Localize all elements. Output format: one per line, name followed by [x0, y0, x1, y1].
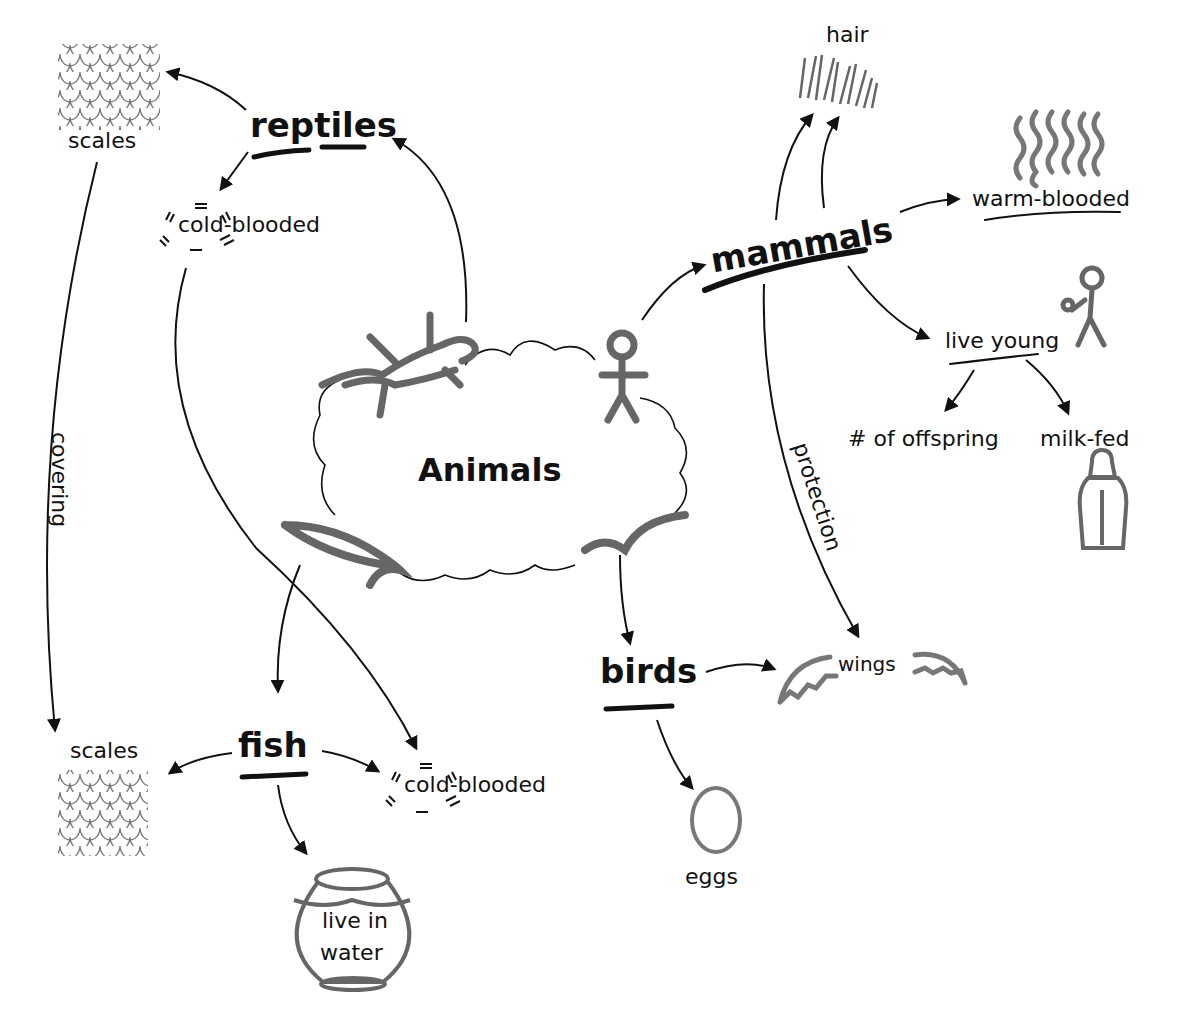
edge-cold-cold: [175, 268, 416, 748]
edge-fish-water: [278, 785, 306, 853]
edge-mammals-warm: [900, 199, 958, 212]
label-wings: wings: [838, 654, 896, 674]
label-fish-scales: scales: [70, 740, 138, 762]
edge-birds-eggs: [657, 720, 692, 788]
parent-child-icon: [1063, 268, 1104, 345]
edge-animals-birds: [620, 555, 630, 643]
node-reptiles[interactable]: reptiles: [250, 108, 397, 142]
label-eggs: eggs: [685, 866, 738, 888]
node-animals[interactable]: Animals: [418, 454, 561, 486]
fish-underline: [242, 774, 306, 777]
lizard-icon: [322, 315, 475, 415]
node-fish[interactable]: fish: [238, 728, 308, 762]
scales-icon-reptiles: [58, 44, 160, 130]
edge-reptiles-cold: [221, 152, 248, 189]
edge-animals-fish: [278, 565, 300, 691]
edge-label-covering: covering: [48, 432, 70, 527]
live-young-underline: [950, 354, 1038, 364]
edge-animals-mammals: [642, 265, 704, 320]
edge-reptiles-scales: [168, 72, 246, 110]
label-live-in: live in: [322, 910, 388, 932]
label-fish-cold-blooded: cold-blooded: [404, 774, 546, 796]
label-water: water: [320, 942, 383, 964]
edge-birds-wings: [706, 664, 774, 672]
label-warm-blooded: warm-blooded: [972, 188, 1130, 210]
edge-mammals-hair-1: [776, 115, 812, 220]
edge-liveyoung-milk: [1026, 360, 1068, 413]
edge-mammals-liveyoung: [848, 266, 928, 338]
egg-icon: [692, 788, 740, 852]
reptiles-underline: [254, 147, 364, 157]
birds-underline: [606, 706, 672, 709]
edge-animals-reptiles: [394, 139, 466, 322]
heat-waves-icon: [1016, 112, 1102, 186]
edge-fish-scales: [170, 753, 232, 773]
label-reptiles-cold-blooded: cold-blooded: [178, 214, 320, 236]
edge-liveyoung-offspring: [946, 370, 974, 410]
fish-icon: [285, 525, 400, 585]
label-reptiles-scales: scales: [68, 130, 136, 152]
stick-figure-icon: [602, 333, 645, 420]
edge-mammals-hair-2: [822, 118, 838, 208]
hair-icon: [800, 55, 877, 108]
node-birds[interactable]: birds: [600, 654, 697, 688]
label-milk-fed: milk-fed: [1040, 428, 1130, 450]
warm-underline: [985, 212, 1120, 220]
label-live-young: live young: [945, 330, 1059, 352]
scales-icon-fish: [58, 770, 148, 856]
label-hair: hair: [826, 24, 869, 46]
edge-fish-cold: [322, 751, 378, 771]
bird-icon: [585, 515, 685, 550]
concept-map-canvas: [0, 0, 1180, 1012]
label-offspring: # of offspring: [848, 428, 999, 450]
baby-bottle-icon: [1080, 450, 1127, 548]
